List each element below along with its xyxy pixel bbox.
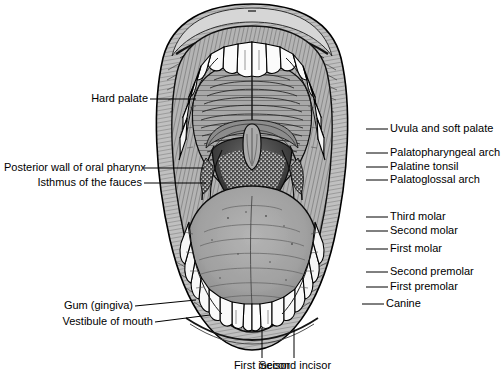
uvula <box>243 124 261 170</box>
label-palatine-tonsil: Palatine tonsil <box>390 161 459 172</box>
label-second-premolar: Second premolar <box>390 266 474 277</box>
label-second-molar: Second molar <box>390 225 458 236</box>
label-second-incisor: Second incisor <box>240 360 350 371</box>
label-isthmus-of-the-fauces: Isthmus of the fauces <box>14 177 142 188</box>
label-posterior-wall-of-oral-pharynx: Posterior wall of oral pharynx <box>4 162 142 173</box>
label-first-premolar: First premolar <box>390 281 458 292</box>
label-hard-palate: Hard palate <box>40 93 148 104</box>
label-vestibule-of-mouth: Vestibule of mouth <box>44 316 153 327</box>
label-first-molar: First molar <box>390 243 442 254</box>
label-palatoglossal-arch: Palatoglossal arch <box>390 174 480 185</box>
leader-gum <box>135 300 196 306</box>
label-third-molar: Third molar <box>390 211 446 222</box>
oral-cavity <box>172 26 332 332</box>
label-gum-gingiva: Gum (gingiva) <box>40 300 133 311</box>
oral-cavity-figure: Hard palate Posterior wall of oral phary… <box>0 0 504 381</box>
label-uvula-and-soft-palate: Uvula and soft palate <box>390 123 493 134</box>
label-palatopharyngeal-arch: Palatopharyngeal arch <box>390 147 500 158</box>
label-canine: Canine <box>386 298 421 309</box>
